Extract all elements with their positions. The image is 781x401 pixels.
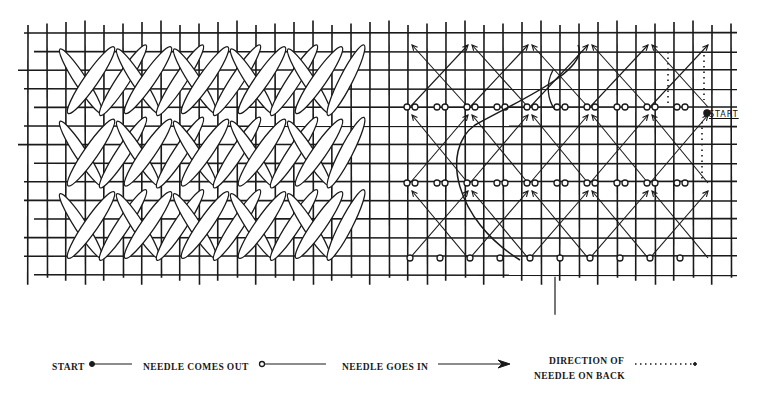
grid-column-line: [617, 21, 618, 278]
needle-out-circle: [584, 104, 590, 110]
grid-column-line: [731, 24, 732, 278]
grid-row-line: [24, 200, 737, 201]
needle-out-circle: [562, 180, 568, 186]
legend-start-label: START: [52, 362, 85, 372]
needle-out-circle: [524, 180, 530, 186]
needle-out-circle: [472, 180, 478, 186]
needle-out-circle: [494, 104, 500, 110]
needle-out-circle: [472, 104, 478, 110]
legend: START NEEDLE COMES OUT NEEDLE GOES IN DI…: [0, 352, 781, 392]
grid-column-line: [47, 24, 48, 278]
needle-out-circle: [592, 104, 598, 110]
needle-out-circle: [674, 104, 680, 110]
needle-out-circle: [622, 104, 628, 110]
needle-out-circle: [647, 255, 653, 261]
grid-column-line: [693, 21, 694, 278]
needle-out-circle: [502, 180, 508, 186]
start-marker-label: START: [709, 110, 739, 119]
needle-out-circle: [587, 255, 593, 261]
needle-out-circle: [652, 104, 658, 110]
grid-row-line: [34, 275, 737, 276]
grid-column-line: [655, 24, 656, 285]
needle-out-circle: [682, 180, 688, 186]
needle-out-circle: [532, 104, 538, 110]
needle-out-circle: [497, 255, 503, 261]
needle-path-diagram: [404, 45, 710, 261]
needle-out-circle: [407, 255, 413, 261]
needle-out-circle: [617, 255, 623, 261]
needle-out-circle: [494, 180, 500, 186]
needle-out-circle: [584, 180, 590, 186]
needle-out-circle: [412, 180, 418, 186]
needle-out-circle: [592, 180, 598, 186]
worked-stitches: [55, 41, 370, 263]
needle-out-circle: [614, 180, 620, 186]
needle-out-circle: [404, 104, 410, 110]
needle-out-circle: [437, 255, 443, 261]
needle-out-circle: [644, 104, 650, 110]
grid-column-line: [579, 24, 580, 278]
needle-out-circle: [557, 255, 563, 261]
needle-out-circle: [464, 104, 470, 110]
needle-out-circle: [412, 104, 418, 110]
needle-out-circle: [524, 104, 530, 110]
legend-direction-label-2: NEEDLE ON BACK: [534, 371, 625, 381]
needle-out-circle: [404, 180, 410, 186]
grid-column-line: [503, 24, 504, 278]
legend-needle-in-label: NEEDLE GOES IN: [342, 362, 428, 372]
grid-row-line: [24, 89, 737, 90]
needle-out-circle: [622, 180, 628, 186]
needle-out-circle: [434, 180, 440, 186]
needle-out-circle: [464, 180, 470, 186]
needle-out-circle: [674, 180, 680, 186]
needle-out-circle: [467, 255, 473, 261]
needle-out-circle: [527, 255, 533, 261]
grid-column-line: [389, 21, 390, 278]
stitch-diagram: [0, 0, 781, 401]
needle-out-circle: [562, 104, 568, 110]
needle-out-circle: [652, 180, 658, 186]
needle-out-circle: [677, 255, 683, 261]
needle-out-circle: [554, 180, 560, 186]
needle-out-circle: [682, 104, 688, 110]
needle-out-circle: [644, 180, 650, 186]
needle-out-circle: [442, 104, 448, 110]
needle-out-circle: [532, 180, 538, 186]
legend-direction-label-1: DIRECTION OF: [549, 356, 624, 366]
legend-needle-out-label: NEEDLE COMES OUT: [143, 362, 249, 372]
needle-out-circle: [434, 104, 440, 110]
needle-out-circle: [442, 180, 448, 186]
stitch-blade: [322, 187, 370, 263]
grid-row-line: [24, 126, 737, 127]
needle-out-circle: [614, 104, 620, 110]
grid-column-line: [465, 21, 466, 278]
